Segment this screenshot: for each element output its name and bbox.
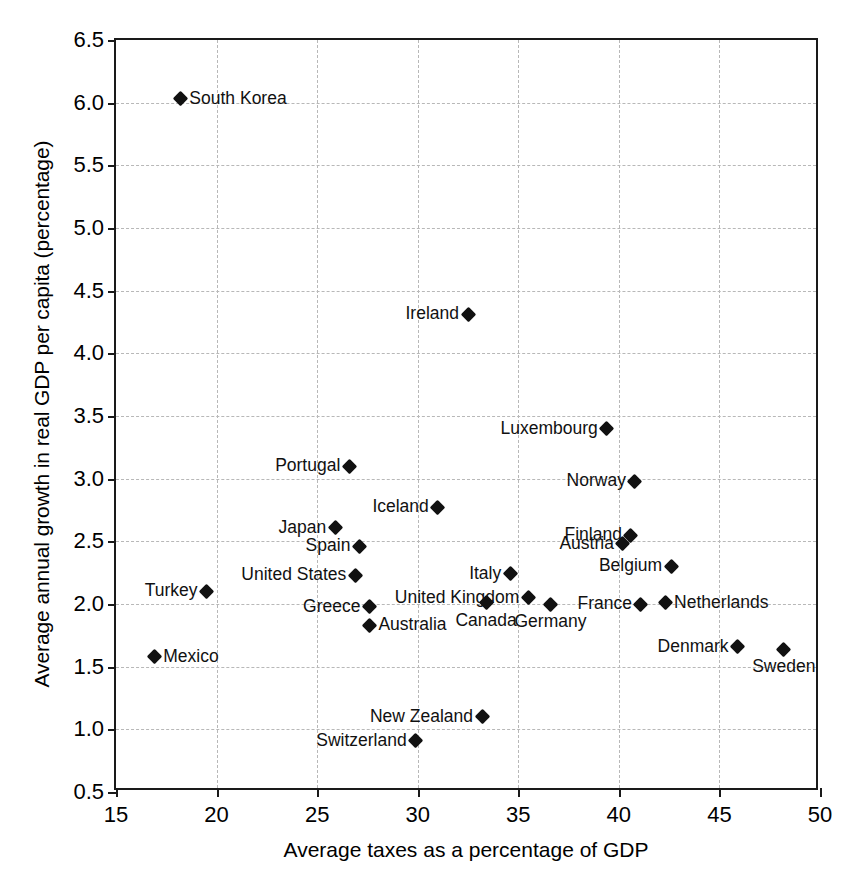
x-tick-mark [217,788,219,797]
x-tick-label: 40 [607,802,631,828]
diamond-marker-icon [362,599,378,615]
diamond-marker-icon [199,584,215,600]
scatter-chart-figure: Average annual growth in real GDP per ca… [0,0,861,890]
x-tick-mark [619,788,621,797]
data-point-label: Portugal [275,457,340,475]
y-gridline [116,541,816,542]
diamond-marker-icon [474,709,490,725]
diamond-marker-icon [348,567,364,583]
diamond-marker-icon [657,595,673,611]
diamond-marker-icon [408,733,424,749]
y-tick-mark [108,228,116,230]
diamond-marker-icon [599,421,615,437]
y-tick-mark [108,792,116,794]
data-point-label: Mexico [163,648,218,666]
data-point-label: Austria [559,535,613,553]
diamond-marker-icon [730,639,746,655]
y-tick-label: 4.5 [73,278,104,304]
x-tick-mark [116,788,118,797]
y-tick-label: 4.0 [73,340,104,366]
y-gridline [116,479,816,480]
data-point-label: Switzerland [316,732,406,750]
y-tick-label: 0.5 [73,779,104,805]
x-gridline [217,40,218,788]
y-axis-title: Average annual growth in real GDP per ca… [22,38,62,790]
y-tick-mark [108,667,116,669]
y-tick-label: 1.5 [73,654,104,680]
diamond-marker-icon [146,649,162,665]
x-tick-mark [719,788,721,797]
diamond-marker-icon [430,500,446,516]
y-gridline [116,667,816,668]
y-tick-mark [108,729,116,731]
y-gridline [116,353,816,354]
diamond-marker-icon [627,473,643,489]
data-point-label: South Korea [189,90,286,108]
x-tick-label: 20 [204,802,228,828]
diamond-marker-icon [327,520,343,536]
data-point-label: New Zealand [370,708,473,726]
x-gridline [418,40,419,788]
y-tick-mark [108,291,116,293]
diamond-marker-icon [543,596,559,612]
diamond-marker-icon [663,559,679,575]
data-point-label: Australia [378,617,446,635]
diamond-marker-icon [362,618,378,634]
y-tick-mark [108,353,116,355]
data-point-label: Japan [279,519,327,537]
x-gridline [518,40,519,788]
y-gridline [116,165,816,166]
x-tick-mark [418,788,420,797]
diamond-marker-icon [342,458,358,474]
x-axis-title: Average taxes as a percentage of GDP [114,838,818,862]
x-tick-label: 30 [405,802,429,828]
y-tick-mark [108,165,116,167]
x-tick-label: 35 [506,802,530,828]
data-point-label: United States [241,566,346,584]
x-gridline [719,40,720,788]
y-tick-label: 2.0 [73,591,104,617]
y-tick-label: 6.5 [73,27,104,53]
data-point-label: Canada [455,612,516,630]
y-tick-label: 1.0 [73,716,104,742]
y-tick-mark [108,541,116,543]
data-point-label: Iceland [372,499,428,517]
x-tick-mark [317,788,319,797]
data-point-label: Belgium [599,558,662,576]
y-tick-mark [108,40,116,42]
data-point-label: Norway [567,472,626,490]
y-tick-mark [108,103,116,105]
x-gridline [619,40,620,788]
y-gridline [116,416,816,417]
y-tick-label: 5.0 [73,215,104,241]
data-point-label: Ireland [405,306,459,324]
diamond-marker-icon [633,596,649,612]
y-tick-label: 3.0 [73,466,104,492]
x-tick-label: 15 [104,802,128,828]
y-tick-mark [108,604,116,606]
x-tick-label: 45 [707,802,731,828]
data-point-label: Turkey [145,583,198,601]
plot-area: 0.51.01.52.02.53.03.54.04.55.05.56.06.51… [114,38,818,790]
y-gridline [116,729,816,730]
x-tick-label: 50 [808,802,832,828]
y-tick-label: 6.0 [73,90,104,116]
data-point-label: Denmark [658,638,729,656]
diamond-marker-icon [173,91,189,107]
diamond-marker-icon [460,307,476,323]
x-tick-label: 25 [305,802,329,828]
y-gridline [116,291,816,292]
x-tick-mark [820,788,822,797]
y-tick-label: 3.5 [73,403,104,429]
data-point-label: Netherlands [674,594,768,612]
data-point-label: Sweden [752,658,815,676]
y-tick-label: 2.5 [73,528,104,554]
x-tick-mark [518,788,520,797]
x-gridline [317,40,318,788]
data-point-label: Spain [306,538,351,556]
y-tick-mark [108,479,116,481]
y-tick-mark [108,416,116,418]
data-point-label: United Kingdom [395,589,520,607]
diamond-marker-icon [502,566,518,582]
data-point-label: Greece [303,598,360,616]
